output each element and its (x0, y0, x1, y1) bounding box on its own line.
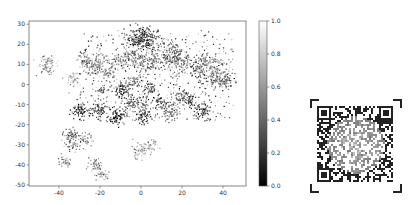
qr-module (379, 180, 381, 182)
scatter-point (211, 86, 212, 87)
scatter-point (140, 97, 141, 98)
scatter-point (121, 115, 122, 116)
scatter-point (44, 67, 45, 68)
scatter-point (190, 94, 191, 95)
scatter-point (147, 67, 148, 68)
scatter-point (150, 144, 151, 145)
scatter-point (187, 100, 188, 101)
scatter-point (96, 117, 97, 118)
scatter-point (218, 61, 219, 62)
qr-module (377, 150, 379, 152)
scatter-point (145, 85, 146, 86)
scatter-point (205, 113, 206, 114)
qr-module (325, 110, 327, 112)
qr-module (381, 152, 383, 154)
qr-module (331, 152, 333, 154)
scatter-point (219, 86, 220, 87)
scatter-point (176, 63, 177, 64)
qr-module (379, 178, 381, 180)
scatter-point (87, 67, 88, 68)
qr-module (365, 118, 367, 120)
qr-module (341, 128, 343, 130)
qr-module (349, 162, 351, 164)
scatter-point (83, 109, 84, 110)
scatter-point (78, 114, 79, 115)
scatter-point (149, 33, 150, 34)
scatter-point (149, 57, 150, 58)
scatter-point (135, 57, 136, 58)
scatter-point (164, 46, 165, 47)
qr-module (327, 130, 329, 132)
qr-module (389, 120, 391, 122)
scatter-point (185, 102, 186, 103)
qr-module (367, 126, 369, 128)
qr-module (325, 152, 327, 154)
scatter-point (178, 63, 179, 64)
qr-module (333, 132, 335, 134)
qr-module (341, 142, 343, 144)
scatter-point (117, 48, 118, 49)
scatter-point (204, 88, 205, 89)
scatter-point (96, 87, 97, 88)
scatter-point (116, 109, 117, 110)
qr-module (351, 174, 353, 176)
scatter-point (179, 113, 180, 114)
scatter-point (66, 162, 67, 163)
scatter-point (174, 72, 175, 73)
qr-module (371, 148, 373, 150)
scatter-point (143, 107, 144, 108)
scatter-point (144, 119, 145, 120)
scatter-point (103, 75, 104, 76)
qr-module (321, 156, 323, 158)
qr-module (379, 132, 381, 134)
scatter-point (215, 96, 216, 97)
scatter-point (147, 123, 148, 124)
qr-module (327, 162, 329, 164)
qr-module (379, 152, 381, 154)
scatter-point (201, 93, 202, 94)
qr-module (357, 132, 359, 134)
qr-module (355, 160, 357, 162)
qr-module (385, 144, 387, 146)
qr-module (379, 120, 381, 122)
qr-module (355, 148, 357, 150)
scatter-point (171, 99, 172, 100)
qr-module (367, 168, 369, 170)
scatter-point (181, 59, 182, 60)
qr-module (385, 140, 387, 142)
qr-module (345, 116, 347, 118)
qr-module (377, 146, 379, 148)
scatter-point (111, 67, 112, 68)
scatter-point (159, 35, 160, 36)
scatter-point (136, 71, 137, 72)
scatter-point (192, 96, 193, 97)
scatter-point (91, 37, 92, 38)
scatter-point (39, 64, 40, 65)
scatter-point (92, 89, 93, 90)
qr-module (355, 134, 357, 136)
scatter-point (226, 79, 227, 80)
scatter-point (146, 47, 147, 48)
scatter-point (117, 124, 118, 125)
qr-module (343, 154, 345, 156)
scatter-point (200, 69, 201, 70)
scatter-point (146, 40, 147, 41)
qr-module (369, 170, 371, 172)
qr-module (387, 176, 389, 178)
y-tick-label: 30 (17, 20, 25, 27)
scatter-point (231, 48, 232, 49)
qr-module (387, 112, 389, 114)
scatter-point (148, 83, 149, 84)
scatter-point (77, 78, 78, 79)
qr-module (379, 108, 381, 110)
scatter-point (153, 37, 154, 38)
scatter-point (168, 67, 169, 68)
scatter-point (89, 115, 90, 116)
qr-module (319, 180, 321, 182)
scatter-point (121, 103, 122, 104)
scatter-point (51, 72, 52, 73)
qr-module (351, 148, 353, 150)
scatter-point (207, 105, 208, 106)
scatter-point (225, 76, 226, 77)
scatter-point (129, 82, 130, 83)
